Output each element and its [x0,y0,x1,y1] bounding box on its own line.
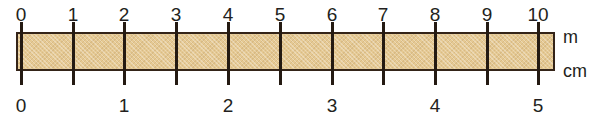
tick-mark-9 [486,22,489,85]
bottom-scale-label-0: 0 [1,96,41,115]
tick-mark-3 [175,22,178,85]
tick-mark-1 [72,22,75,85]
ruler-bar [16,32,555,71]
tick-mark-5 [279,22,282,85]
bottom-scale-label-3: 3 [312,96,352,115]
bottom-scale-label-5: 5 [518,96,558,115]
bottom-scale-label-2: 2 [208,96,248,115]
tick-mark-0 [20,22,23,85]
ruler-figure: 0 1 2 3 4 5 6 7 8 9 10 m cm 0 1 2 3 4 5 [0,0,597,136]
tick-mark-6 [331,22,334,85]
unit-label-m: m [563,28,578,46]
tick-mark-2 [123,22,126,85]
unit-label-cm: cm [563,62,587,80]
tick-mark-10 [537,22,540,85]
tick-mark-7 [382,22,385,85]
bottom-scale-label-1: 1 [104,96,144,115]
bottom-scale-label-4: 4 [415,96,455,115]
tick-mark-8 [434,22,437,85]
tick-mark-4 [227,22,230,85]
